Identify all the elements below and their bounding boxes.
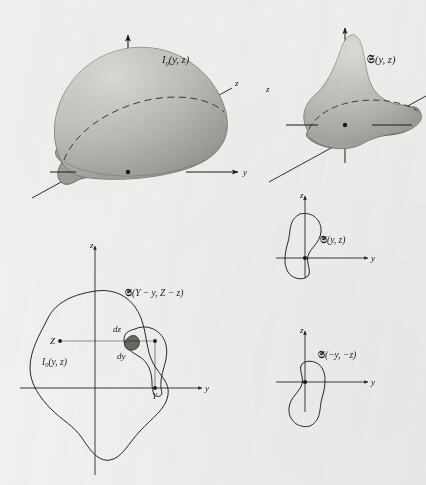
origin-dot-top-left bbox=[126, 170, 130, 174]
point-label-dy: dy bbox=[117, 351, 126, 361]
label-spread-base-bottom-right: 𝔖 bbox=[318, 349, 325, 360]
spread-contour-middle-right bbox=[285, 213, 321, 278]
label-object-function-bottom-left: I0(y, z) bbox=[41, 357, 67, 368]
svg-text:𝔖(y, z): 𝔖(y, z) bbox=[320, 234, 345, 246]
svg-text:𝔖(y, z): 𝔖(y, z) bbox=[367, 53, 396, 66]
axis-label-z-top-left: z bbox=[234, 78, 239, 88]
axis-label-y-middle-right: y bbox=[370, 253, 375, 263]
label-spread-function-top-right: 𝔖(y, z) bbox=[367, 53, 396, 66]
point-Y-dot bbox=[153, 386, 157, 390]
label-shifted-spread-args: (Y − y, Z − z) bbox=[132, 288, 183, 299]
panel-bottom-right-inverted-spread-contour: z y 𝔖(−y, −z) bbox=[276, 325, 375, 427]
label-inverted-spread-function-bottom-right: 𝔖(−y, −z) bbox=[318, 349, 356, 361]
label-spread-base-middle-right: 𝔖 bbox=[320, 234, 327, 245]
origin-dot-bottom-right bbox=[303, 380, 307, 384]
axis-label-z-middle-right: z bbox=[299, 190, 304, 200]
spread-surface-shading-top-right bbox=[304, 35, 422, 149]
point-label-Z: Z bbox=[50, 336, 56, 346]
label-spread-args-middle-right: (y, z) bbox=[327, 235, 345, 246]
svg-text:I0(y, z): I0(y, z) bbox=[161, 54, 190, 67]
axis-label-z-bottom-right: z bbox=[299, 325, 304, 335]
object-surface-shading-top-left bbox=[54, 47, 227, 179]
axis-label-y-bottom-right: y bbox=[370, 377, 375, 387]
axis-label-y-top-left: y bbox=[242, 167, 247, 177]
panel-top-left-object-surface: y z I0(y, z) bbox=[32, 35, 247, 198]
label-object-args-top-left: (y, z) bbox=[169, 54, 190, 66]
label-spread-args-top-right: (y, z) bbox=[375, 54, 396, 66]
origin-dot-top-right bbox=[343, 123, 347, 127]
svg-text:I0(y, z): I0(y, z) bbox=[41, 357, 67, 368]
label-object-args-bottom-left: (y, z) bbox=[48, 357, 66, 368]
svg-text:𝔖(−y, −z): 𝔖(−y, −z) bbox=[318, 349, 356, 361]
label-spread-function-middle-right: 𝔖(y, z) bbox=[320, 234, 345, 246]
label-shifted-spread-base: 𝔖 bbox=[125, 287, 132, 298]
label-object-function-top-left: I0(y, z) bbox=[161, 54, 190, 67]
spread-contour-bottom-right bbox=[289, 361, 325, 426]
svg-text:𝔖(Y − y, Z − z): 𝔖(Y − y, Z − z) bbox=[125, 287, 183, 299]
panel-bottom-left-convolution-overlay: z y Z Y dz dy 𝔖(Y − y, Z − z) I0(y, z) bbox=[20, 240, 209, 475]
point-corner-dot bbox=[153, 339, 157, 343]
axis-label-z-top-right: z bbox=[265, 84, 270, 94]
point-Z-dot bbox=[58, 339, 62, 343]
object-contour-bottom-left bbox=[30, 291, 168, 461]
axis-label-z-bottom-left: z bbox=[89, 240, 94, 250]
label-spread-args-bottom-right: (−y, −z) bbox=[325, 350, 356, 361]
panel-middle-right-spread-contour: z y 𝔖(y, z) bbox=[276, 190, 375, 279]
origin-dot-middle-right bbox=[303, 256, 307, 260]
axis-label-y-bottom-left: y bbox=[204, 383, 209, 393]
point-label-dz: dz bbox=[113, 324, 122, 334]
differential-area-element-bottom-left bbox=[125, 336, 140, 351]
panel-top-right-spread-surface: z 𝔖(y, z) bbox=[265, 28, 426, 182]
label-shifted-spread-function-bottom-left: 𝔖(Y − y, Z − z) bbox=[125, 287, 183, 299]
figure-canvas: y z I0(y, z) z 𝔖(y, z) bbox=[0, 0, 426, 485]
label-spread-base-top-right: 𝔖 bbox=[367, 53, 375, 65]
